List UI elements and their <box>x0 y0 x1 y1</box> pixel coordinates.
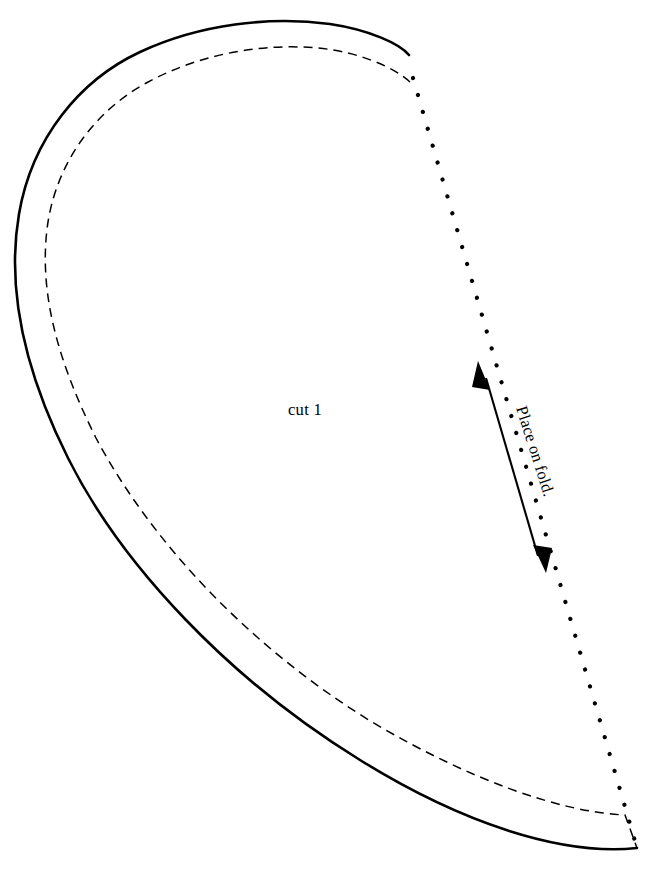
grainline-arrow-head-down <box>533 545 552 573</box>
pattern-drawing: cut 1 Place on fold. <box>0 0 648 870</box>
seam-allowance-line <box>45 47 637 848</box>
fold-line <box>413 78 637 848</box>
place-on-fold-label: Place on fold. <box>512 403 559 498</box>
pattern-sheet: cut 1 Place on fold. <box>0 0 648 870</box>
cutting-line <box>15 21 637 849</box>
grainline-arrow-head-up <box>472 361 490 390</box>
cut-quantity-label: cut 1 <box>288 400 322 419</box>
